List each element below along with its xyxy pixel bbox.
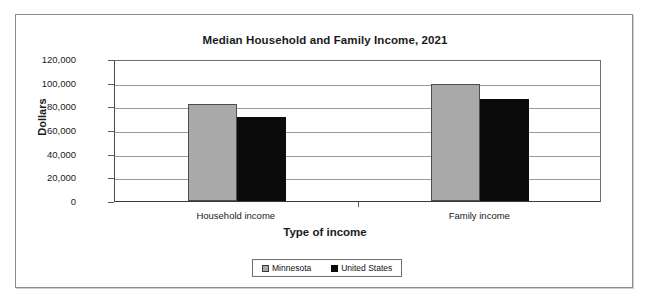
legend-swatch-icon xyxy=(262,265,269,272)
chart-frame: Median Household and Family Income, 2021… xyxy=(15,14,633,288)
y-axis-tick-label: 100,000 xyxy=(16,78,76,89)
legend-label: Minnesota xyxy=(272,263,311,273)
legend-entry-minnesota: Minnesota xyxy=(262,263,311,273)
legend-swatch-icon xyxy=(331,265,338,272)
bar-united-states-household-income xyxy=(237,117,286,201)
gridline xyxy=(115,85,600,86)
x-axis-title: Type of income xyxy=(16,226,634,238)
x-axis-tick-label: Household income xyxy=(166,210,306,221)
y-axis-tick-mark xyxy=(108,202,114,203)
y-axis-tick-label: 80,000 xyxy=(16,101,76,112)
x-axis-tick-mark xyxy=(358,202,359,207)
y-axis-tick-label: 0 xyxy=(16,196,76,207)
legend-label: United States xyxy=(341,263,392,273)
y-axis-tick-label: 60,000 xyxy=(16,125,76,136)
x-axis-tick-label: Family income xyxy=(409,210,549,221)
bar-minnesota-family-income xyxy=(431,84,480,201)
bar-united-states-family-income xyxy=(480,99,529,201)
plot-area xyxy=(114,60,601,202)
bar-minnesota-household-income xyxy=(188,104,237,201)
y-axis-title: Dollars xyxy=(36,87,48,147)
y-axis-tick-label: 120,000 xyxy=(16,54,76,65)
chart-legend: MinnesotaUnited States xyxy=(252,259,402,277)
y-axis-tick-label: 20,000 xyxy=(16,172,76,183)
chart-title: Median Household and Family Income, 2021 xyxy=(16,34,634,46)
legend-entry-united-states: United States xyxy=(331,263,392,273)
y-axis-tick-label: 40,000 xyxy=(16,149,76,160)
